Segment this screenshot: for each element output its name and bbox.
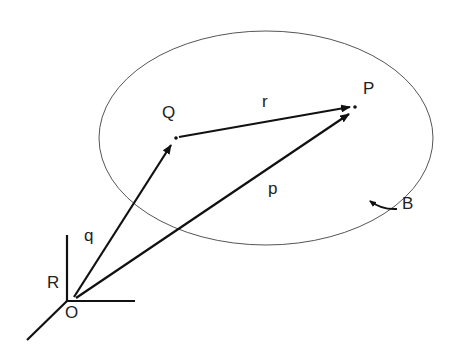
vector-q <box>74 145 171 297</box>
label-O: O <box>65 304 78 321</box>
label-R: R <box>47 274 59 291</box>
vector-r <box>179 107 350 137</box>
label-p: p <box>268 180 277 197</box>
region-boundary <box>99 31 433 245</box>
point-Q <box>174 136 178 140</box>
label-r: r <box>262 93 268 110</box>
label-B: B <box>402 195 413 212</box>
label-Q: Q <box>162 104 175 121</box>
label-P: P <box>363 80 374 97</box>
vector-p <box>76 114 349 298</box>
point-P <box>353 105 357 109</box>
label-q: q <box>84 227 93 244</box>
